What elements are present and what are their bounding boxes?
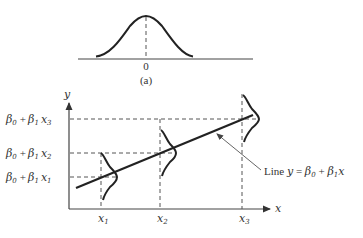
bell-curve <box>96 16 193 57</box>
panel-a-caption: (a) <box>140 74 153 87</box>
x-tick-x2: x2 <box>157 212 168 226</box>
y-axis-label: y <box>63 88 71 101</box>
zero-label: 0 <box>143 60 149 72</box>
panel-a-normal-curve: 0 (a) <box>78 16 253 87</box>
line-pointer-arrow <box>217 134 261 170</box>
x-tick-x3: x3 <box>239 212 250 226</box>
level-label-x2: β0+β1x2 <box>5 147 52 161</box>
x-tick-x1: x1 <box>98 212 109 226</box>
regression-line <box>76 115 253 188</box>
regression-diagram: 0 (a) y x β0+β1x3 β0+β1x2 <box>0 0 363 238</box>
svg-text:β0+β1x2: β0+β1x2 <box>5 147 52 161</box>
x-axis-label: x <box>275 202 282 215</box>
level-label-x3: β0+β1x3 <box>5 113 52 127</box>
level-label-x1: β0+β1x1 <box>5 171 52 185</box>
svg-text:β0+β1x3: β0+β1x3 <box>5 113 52 127</box>
panel-b-regression: y x β0+β1x3 β0+β1x2 β0+β1x1 <box>5 88 345 226</box>
svg-text:β0+β1x1: β0+β1x1 <box>5 171 52 185</box>
line-equation-label: Line y = β0 + β1x <box>264 165 345 179</box>
